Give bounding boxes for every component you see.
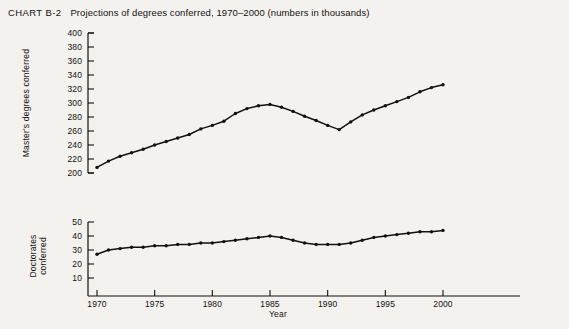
top-chart-data-point bbox=[165, 140, 168, 143]
bottom-chart-data-point bbox=[188, 243, 191, 246]
top-chart-data-point bbox=[280, 106, 283, 109]
bottom-chart-data-point bbox=[199, 241, 202, 244]
bottom-chart-data-point bbox=[280, 236, 283, 239]
top-chart-data-point bbox=[107, 159, 110, 162]
top-chart-data-point bbox=[268, 103, 271, 106]
bottom-chart-data-point bbox=[349, 241, 352, 244]
bottom-chart-data-point bbox=[361, 239, 364, 242]
top-chart-data-point bbox=[407, 96, 410, 99]
bottom-chart-data-point bbox=[418, 230, 421, 233]
bottom-chart-data-point bbox=[326, 243, 329, 246]
bottom-chart-data-point bbox=[107, 248, 110, 251]
top-chart-data-point bbox=[222, 120, 225, 123]
bottom-chart-data-point bbox=[303, 241, 306, 244]
bottom-chart-data-point bbox=[372, 236, 375, 239]
bottom-chart-data-point bbox=[165, 244, 168, 247]
bottom-chart-data-point bbox=[141, 246, 144, 249]
bottom-chart-data-point bbox=[234, 239, 237, 242]
top-chart-data-point bbox=[395, 100, 398, 103]
top-chart-data-point bbox=[199, 127, 202, 130]
bottom-chart-data-point bbox=[222, 240, 225, 243]
bottom-chart-line bbox=[97, 230, 443, 254]
top-chart-data-point bbox=[188, 133, 191, 136]
bottom-chart-data-point bbox=[176, 243, 179, 246]
bottom-chart-data-point bbox=[211, 241, 214, 244]
bottom-chart-data-point bbox=[291, 239, 294, 242]
top-chart-data-point bbox=[303, 115, 306, 118]
chart-canvas bbox=[0, 0, 569, 329]
top-chart-data-point bbox=[130, 151, 133, 154]
top-chart-data-point bbox=[257, 104, 260, 107]
bottom-chart-data-point bbox=[130, 246, 133, 249]
bottom-chart-data-point bbox=[118, 247, 121, 250]
top-chart-data-point bbox=[291, 110, 294, 113]
bottom-chart-data-point bbox=[407, 232, 410, 235]
bottom-chart-data-point bbox=[257, 236, 260, 239]
top-chart-data-point bbox=[326, 124, 329, 127]
top-chart-data-point bbox=[118, 155, 121, 158]
bottom-chart-data-point bbox=[395, 233, 398, 236]
top-chart-data-point bbox=[211, 124, 214, 127]
top-chart-data-point bbox=[176, 136, 179, 139]
top-chart-data-point bbox=[361, 113, 364, 116]
bottom-chart-data-point bbox=[153, 244, 156, 247]
bottom-chart-data-point bbox=[384, 234, 387, 237]
top-chart-data-point bbox=[441, 83, 444, 86]
top-chart-data-point bbox=[234, 112, 237, 115]
top-chart-data-point bbox=[95, 166, 98, 169]
top-chart-line bbox=[97, 85, 443, 168]
chart-page: CHART B-2 Projections of degrees conferr… bbox=[0, 0, 569, 329]
top-chart-data-point bbox=[245, 107, 248, 110]
bottom-chart-data-point bbox=[430, 230, 433, 233]
bottom-chart-data-point bbox=[268, 234, 271, 237]
top-chart-data-point bbox=[314, 119, 317, 122]
top-chart-data-point bbox=[418, 90, 421, 93]
top-chart-data-point bbox=[349, 120, 352, 123]
bottom-chart-data-point bbox=[314, 243, 317, 246]
bottom-chart-data-point bbox=[95, 253, 98, 256]
bottom-chart-data-point bbox=[338, 243, 341, 246]
top-chart-data-point bbox=[153, 143, 156, 146]
top-chart-data-point bbox=[141, 148, 144, 151]
bottom-chart-data-point bbox=[245, 237, 248, 240]
top-chart-data-point bbox=[372, 108, 375, 111]
top-chart-data-point bbox=[430, 86, 433, 89]
top-chart-data-point bbox=[338, 128, 341, 131]
bottom-chart-data-point bbox=[441, 229, 444, 232]
top-chart-data-point bbox=[384, 104, 387, 107]
